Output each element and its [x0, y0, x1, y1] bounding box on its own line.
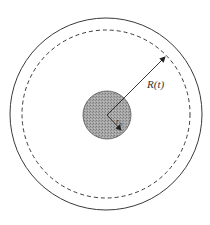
outer-radius-label: R(t) [146, 78, 164, 91]
concentric-circles-diagram: R(t) rb [0, 0, 210, 225]
